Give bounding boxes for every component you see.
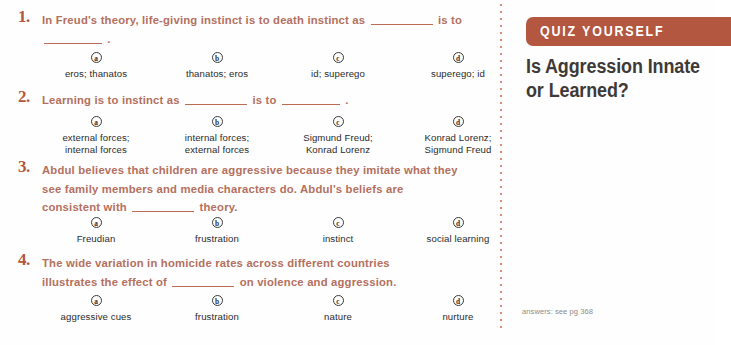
question-3-text: Abdul believes that children are aggress… [42,164,458,213]
option-4d[interactable]: d nurture [383,291,533,323]
question-2-text-part-2: is to [249,94,280,106]
question-1-number: 1. [18,7,30,27]
question-4-number: 4. [18,250,30,270]
option-bullet-icon[interactable]: d [453,52,464,63]
sidebar-heading: Is Aggression Innate or Learned? [526,54,705,102]
option-label[interactable]: Konrad Lorenz; Sigmund Freud [383,132,533,155]
question-2-options: a external forces; internal forces b int… [0,112,500,146]
option-label[interactable]: nurture [383,311,533,323]
question-4-text-part-2: on violence and aggression. [236,276,396,288]
question-2-blank-2 [282,94,340,105]
answers-reference-note: answers: see pg 368 [522,307,593,316]
option-bullet-icon[interactable]: d [453,295,464,306]
question-3-options: a Freudian b frustration c instinct d so… [0,213,500,247]
question-3-blank-1 [132,201,194,212]
question-1-text-part-2: is to [435,14,462,26]
question-2-text: Learning is to instinct as is to . [42,94,348,106]
question-4-options: a aggressive cues b frustration c nature… [0,291,500,325]
option-bullet-icon[interactable]: c [333,116,344,127]
question-4-header: 4. The wide variation in homicide rates … [0,253,500,290]
option-bullet-icon[interactable]: a [91,295,102,306]
option-2d[interactable]: d Konrad Lorenz; Sigmund Freud [383,112,533,155]
option-1d[interactable]: d superego; id [383,48,533,80]
quiz-questions-column: 1. In Freud's theory, life-giving instin… [0,0,500,345]
question-1-blank-2 [44,33,102,44]
question-block-2: 2. Learning is to instinct as is to . a … [0,90,500,109]
question-block-1: 1. In Freud's theory, life-giving instin… [0,10,500,47]
question-1-text-part-3: . [104,33,111,45]
quiz-yourself-banner: QUIZ YOURSELF [526,17,731,46]
option-bullet-icon[interactable]: b [212,295,223,306]
question-2-number: 2. [18,87,30,107]
option-bullet-icon[interactable]: c [333,52,344,63]
question-2-header: 2. Learning is to instinct as is to . [0,90,500,109]
question-1-text-part-1: In Freud's theory, life-giving instinct … [42,14,369,26]
question-3-header: 3. Abdul believes that children are aggr… [0,160,500,216]
question-1-blank-1 [371,14,433,25]
question-4-blank-1 [172,276,234,287]
question-2-text-part-3: . [342,94,349,106]
dotted-divider [500,4,502,329]
option-label[interactable]: social learning [383,233,533,245]
option-bullet-icon[interactable]: d [453,217,464,228]
option-label[interactable]: superego; id [383,68,533,80]
question-4-text: The wide variation in homicide rates acr… [42,257,396,288]
question-2-text-part-1: Learning is to instinct as [42,94,183,106]
option-bullet-icon[interactable]: c [333,217,344,228]
option-bullet-icon[interactable]: b [212,217,223,228]
question-3-number: 3. [18,157,30,177]
question-block-4: 4. The wide variation in homicide rates … [0,253,500,290]
question-1-text: In Freud's theory, life-giving instinct … [42,14,462,45]
option-bullet-icon[interactable]: c [333,295,344,306]
question-2-blank-1 [185,94,247,105]
option-bullet-icon[interactable]: a [91,52,102,63]
quiz-yourself-banner-label: QUIZ YOURSELF [540,23,664,39]
question-3-text-part-1: Abdul believes that children are aggress… [42,164,458,213]
question-3-text-part-2: theory. [196,201,237,213]
question-block-3: 3. Abdul believes that children are aggr… [0,160,500,216]
option-bullet-icon[interactable]: b [212,116,223,127]
option-bullet-icon[interactable]: a [91,217,102,228]
option-bullet-icon[interactable]: d [453,116,464,127]
option-bullet-icon[interactable]: b [212,52,223,63]
option-bullet-icon[interactable]: a [91,116,102,127]
quiz-yourself-sidebar: QUIZ YOURSELF Is Aggression Innate or Le… [512,0,717,345]
question-1-options: a eros; thanatos b thanatos; eros c id; … [0,48,500,82]
option-3d[interactable]: d social learning [383,213,533,245]
question-1-header: 1. In Freud's theory, life-giving instin… [0,10,500,47]
